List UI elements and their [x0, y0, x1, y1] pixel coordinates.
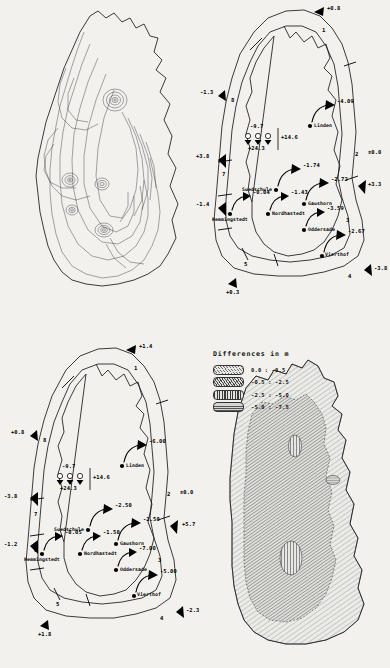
edge-arrows	[218, 7, 372, 288]
section-label-b-4: 4	[160, 616, 163, 622]
edge-value-b-bottom-4: -2.3	[186, 608, 199, 613]
edge-value-b-right-3: +5.7	[182, 522, 195, 527]
station-value-b-suedschule: -2.50	[115, 503, 132, 508]
station-name-b-hemmingstedt: Hemmingstedt	[24, 558, 60, 563]
section-label-a-8: 8	[231, 98, 234, 104]
vector-map-a-svg	[196, 4, 390, 316]
section-label-b-3: 3	[158, 558, 161, 564]
edge-value-a-right-2: ±0.0	[368, 150, 381, 155]
vector-map-b-outer-boundary	[26, 348, 176, 618]
shaded-map-region-horizontal	[326, 476, 340, 485]
section-label-a-7: 7	[222, 172, 225, 178]
station-value-a-suedschule: -1.74	[303, 163, 320, 168]
station-value-b-oddersade: -7.00	[139, 546, 156, 551]
section-label-a-3: 3	[346, 218, 349, 224]
cluster-lower-value-a: +24.3	[248, 146, 265, 151]
section-label-a-6: 6	[222, 208, 225, 214]
station-name-a-hemmingstedt: Hemmingstedt	[212, 218, 248, 223]
station-value-b-hemmingstedt: -0.05	[65, 530, 82, 535]
station-value-a-nordhastedt: -1.43	[291, 190, 308, 195]
contour-map-svg	[18, 8, 193, 313]
shaded-map-region-dense	[244, 394, 336, 622]
edge-value-b-top: +1.4	[139, 344, 152, 349]
legend-title: Differences in m	[213, 350, 333, 358]
legend-label-4: -5.0 : -7.5	[251, 404, 289, 410]
edge-value-a-left-6: -1.4	[196, 202, 209, 207]
station-name-a-vierthof: Vierthof	[325, 253, 349, 258]
station-value-b-gaushorn: -2.50	[143, 517, 160, 522]
section-label-b-6: 6	[34, 548, 37, 554]
shaded-map-region-vertical-b	[280, 541, 302, 575]
section-label-a-5: 5	[244, 262, 247, 268]
station-name-a-nordhastedt: Nordhastedt	[272, 212, 305, 217]
section-label-b-1: 1	[134, 366, 137, 372]
station-value-a-gaushorn: -2.72	[331, 177, 348, 182]
shaded-map-region-vertical-a	[289, 435, 302, 457]
cluster-lower-value-b: +24.3	[60, 486, 77, 491]
station-name-a-oddersade: Oddersade	[308, 228, 335, 233]
cluster-right-value-a: +14.6	[281, 135, 298, 140]
section-label-a-4: 4	[348, 274, 351, 280]
edge-value-a-top: +0.8	[327, 6, 340, 11]
cluster-upper-value-b: -9.7	[62, 464, 75, 469]
station-value-b-nordhastedt: -1.50	[103, 530, 120, 535]
section-label-b-5: 5	[56, 602, 59, 608]
station-name-a-linden: Linden	[314, 124, 332, 129]
edge-value-b-right-2: ±0.0	[180, 490, 193, 495]
station-value-a-hemmingstedt: -0.04	[253, 190, 270, 195]
legend-swatch-2	[213, 377, 244, 387]
vector-map-a-panel: 1 2 3 4 5 6 7 8 +0.8 -1.3 +3.8 -1.4 ±0.0…	[196, 4, 390, 316]
edge-value-a-left-7: +3.8	[196, 154, 209, 159]
legend: Differences in m 0.0 : -0.5 -0.5 : -2.5 …	[213, 350, 333, 415]
legend-row-4: -5.0 : -7.5	[213, 403, 333, 412]
vector-map-b-panel: 1 2 3 4 5 6 7 8 +1.4 +0.8 -3.8 -1.2 ±0.0…	[4, 340, 204, 666]
station-value-b-vierthof: -5.00	[160, 569, 177, 574]
contour-map-outline	[36, 11, 178, 286]
contour-map-panel	[18, 8, 193, 313]
legend-swatch-4	[213, 402, 244, 412]
legend-label-2: -0.5 : -2.5	[251, 379, 289, 385]
edge-value-a-right-3: +3.3	[368, 182, 381, 187]
section-label-a-1: 1	[322, 28, 325, 34]
section-label-a-2: 2	[355, 152, 358, 158]
edge-value-b-bottom-5: +1.8	[38, 632, 51, 637]
station-name-b-oddersade: Oddersade	[120, 568, 147, 573]
legend-swatch-3	[213, 390, 244, 400]
station-value-a-linden: -4.09	[337, 99, 354, 104]
station-name-b-linden: Linden	[126, 464, 144, 469]
legend-row-3: -2.5 : -5.0	[213, 390, 333, 399]
edge-value-b-left-6: -1.2	[4, 542, 17, 547]
station-name-b-vierthof: Vierthof	[137, 593, 161, 598]
edge-value-a-bottom-4: -3.8	[374, 266, 387, 271]
edge-value-a-left-upper: -1.3	[200, 90, 213, 95]
legend-label-1: 0.0 : -0.5	[251, 367, 285, 373]
vector-map-b-svg	[4, 340, 204, 666]
edge-value-b-left-7: -3.8	[4, 494, 17, 499]
legend-swatch-1	[213, 365, 244, 375]
section-label-b-2: 2	[167, 492, 170, 498]
cluster-upper-value-a: -9.7	[250, 124, 263, 129]
legend-row-2: -0.5 : -2.5	[213, 378, 333, 387]
legend-row-1: 0.0 : -0.5	[213, 365, 333, 374]
edge-value-a-bottom-5: +0.3	[226, 290, 239, 295]
legend-label-3: -2.5 : -5.0	[251, 392, 289, 398]
edge-value-b-left-upper: +0.8	[11, 430, 24, 435]
station-value-a-oddersade: -3.59	[327, 206, 344, 211]
station-value-a-vierthof: -2.67	[348, 229, 365, 234]
station-value-b-linden: -6.00	[149, 439, 166, 444]
contour-lines	[44, 32, 160, 278]
station-name-b-nordhastedt: Nordhastedt	[84, 552, 117, 557]
edge-arrows-b	[30, 345, 184, 630]
section-label-b-8: 8	[43, 438, 46, 444]
cluster-right-value-b: +14.6	[93, 475, 110, 480]
section-label-b-7: 7	[34, 512, 37, 518]
